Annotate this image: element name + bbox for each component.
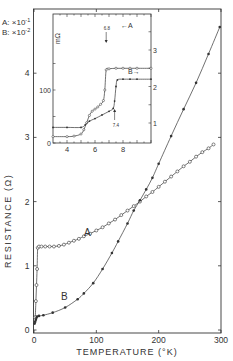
inset-data-point-filled [84,124,86,126]
data-point-filled [132,209,135,212]
data-point-open [163,180,166,183]
y-axis-label: RESISTANCE (Ω) [3,174,13,268]
data-point-filled [126,222,129,225]
inset-y-tick-label-left: 100 [39,87,51,94]
data-point-filled [38,315,41,318]
inset-border [53,14,151,143]
data-point-open [67,241,70,244]
y-tick-label: 3 [25,132,30,142]
data-point-open [95,229,98,232]
data-point-filled [117,240,120,243]
data-point-open [157,185,160,188]
data-point-filled [101,268,104,271]
inset-annotation-7-4: 7.4 [113,123,120,128]
data-point-open [195,155,198,158]
inset-data-point-open [102,100,104,102]
inset-data-point-filled [66,126,68,128]
data-point-open [52,245,55,248]
data-point-open [72,239,75,242]
y-tick-label: 1 [25,261,30,271]
inset-data-point-filled [112,108,114,110]
data-point-open [126,209,129,212]
inset-arrow-b: B→ [128,68,140,75]
data-point-open [101,226,104,229]
inset-x-tick-label: 4 [65,145,69,154]
resistance-temperature-chart: 010020030001234 4680100123 A: ×10-1 B: ×… [0,0,233,361]
inset-data-point-open [66,136,68,138]
inset-x-tick-label: 6 [93,145,97,154]
inset-y-tick-label-right: 1 [153,120,157,127]
inset-data-point-filled [136,78,138,80]
inset-data-point-filled [129,78,131,80]
inset-y-tick-label-right: 2 [153,84,157,91]
data-point-open [201,151,204,154]
data-point-filled [145,188,148,191]
inset-data-point-filled [94,118,96,120]
data-point-filled [207,53,210,56]
inset-data-point-filled [108,110,110,112]
data-point-open [107,222,110,225]
inset-data-point-filled [122,78,124,80]
inset-data-point-open [105,69,107,71]
inset-data-point-filled [52,126,54,128]
y-tick-label: 0 [25,325,30,335]
data-point-open [48,245,51,248]
inset-data-point-open [91,110,93,112]
inset-data-point-open [83,129,85,131]
inset-data-point-filled [89,120,91,122]
inset-data-point-open [88,114,90,116]
data-point-open [34,300,37,303]
inset-data-point-filled [114,100,116,102]
inset-data-point-filled [101,114,103,116]
data-point-filled [151,177,154,180]
scale-note-a: A: ×10-1 [2,17,30,27]
data-point-open [44,245,47,248]
data-point-open [151,190,154,193]
x-tick-label: 100 [89,335,103,345]
inset-data-point-filled [115,86,117,88]
data-point-open [36,268,39,271]
inset-data-point-open [122,67,124,69]
data-point-open [114,218,117,221]
inset-data-point-filled [80,126,82,128]
data-point-open [120,214,123,217]
data-point-open [35,284,38,287]
data-point-filled [139,199,142,202]
x-tick-label: 0 [32,335,37,345]
data-point-open [77,237,80,240]
scale-note-b: B: ×10-2 [2,27,30,37]
data-point-open [182,165,185,168]
inset-y-tick-label-right: 3 [153,47,157,54]
data-point-filled [182,108,185,111]
data-point-open [132,205,135,208]
data-point-filled [111,252,114,255]
inset-data-point-filled [117,79,119,81]
data-point-open [57,244,60,247]
data-point-filled [42,314,45,317]
data-point-open [40,245,43,248]
inset-arrow-a: ←A [121,22,133,29]
data-point-filled [64,306,67,309]
data-point-open [170,175,173,178]
x-tick-label: 300 [214,335,228,345]
inset-y-label: mΩ [54,33,61,44]
data-point-filled [170,135,173,138]
inset-data-point-open [100,103,102,105]
inset-x-tick-label: 8 [121,145,125,154]
inset-data-point-open [104,89,106,91]
inset-data-point-open [108,68,110,70]
data-point-open [207,147,210,150]
curve-label-b: B [61,291,68,302]
data-point-open [188,160,191,163]
inset-annotation-6-8: 6.8 [104,26,111,31]
x-tick-label: 200 [152,335,166,345]
inset-data-point-open [97,106,99,108]
data-point-open [145,195,148,198]
data-point-filled [76,298,79,301]
inset-data-point-open [73,135,75,137]
inset-data-point-open [94,108,96,110]
data-point-filled [195,82,198,85]
data-point-filled [51,311,54,314]
data-point-open [176,170,179,173]
data-point-filled [218,26,221,29]
